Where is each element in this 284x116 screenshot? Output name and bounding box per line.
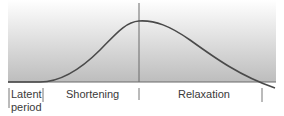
twitch-diagram [0, 0, 284, 116]
phase-label-shortening: Shortening [66, 88, 119, 100]
phase-label-latent-2: period [11, 101, 42, 113]
phase-label-latent-1: Latent [11, 88, 42, 100]
phase-label-relaxation: Relaxation [178, 88, 230, 100]
